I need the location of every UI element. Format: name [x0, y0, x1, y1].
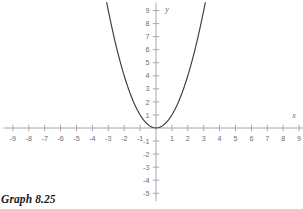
x-tick-label: -9	[10, 134, 16, 143]
y-axis-label: y	[164, 5, 169, 14]
y-tick-label: 4	[146, 71, 150, 80]
x-tick-label: -8	[26, 134, 32, 143]
x-tick-label: -3	[105, 134, 111, 143]
y-tick-label: 7	[146, 32, 150, 41]
y-axis-tick-labels: 987654321-1-2-3-4-5	[143, 6, 149, 198]
y-tick-label: 5	[146, 58, 150, 67]
y-tick-label: 9	[146, 6, 150, 15]
y-tick-label: -2	[143, 150, 149, 159]
x-tick-label: -7	[41, 134, 47, 143]
coordinate-plane: -9-8-7-6-5-4-3-2-1123456789 987654321-1-…	[0, 0, 303, 209]
y-tick-label: 8	[146, 19, 150, 28]
graph-figure: -9-8-7-6-5-4-3-2-1123456789 987654321-1-…	[0, 0, 303, 209]
x-tick-label: -4	[89, 134, 95, 143]
y-tick-label: 3	[146, 84, 150, 93]
figure-caption: Graph 8.25	[1, 193, 56, 205]
y-tick-label: 1	[146, 111, 150, 120]
x-tick-label: -6	[57, 134, 63, 143]
y-tick-label: -1	[143, 137, 149, 146]
x-tick-label: 7	[265, 134, 269, 143]
y-tick-label: -4	[143, 176, 149, 185]
y-tick-label: 6	[146, 45, 150, 54]
y-tick-label: -3	[143, 163, 149, 172]
x-tick-label: 9	[297, 134, 301, 143]
x-tick-label: 1	[170, 134, 174, 143]
x-axis-label: x	[291, 111, 296, 120]
y-tick-label: -5	[143, 189, 149, 198]
x-tick-label: 5	[234, 134, 238, 143]
x-tick-label: 8	[281, 134, 285, 143]
x-tick-label: 2	[186, 134, 190, 143]
x-tick-label: 4	[218, 134, 222, 143]
x-tick-label: -5	[73, 134, 79, 143]
x-tick-label: -2	[121, 134, 127, 143]
y-tick-label: 2	[146, 98, 150, 107]
x-tick-label: 6	[249, 134, 253, 143]
x-tick-label: 3	[202, 134, 206, 143]
